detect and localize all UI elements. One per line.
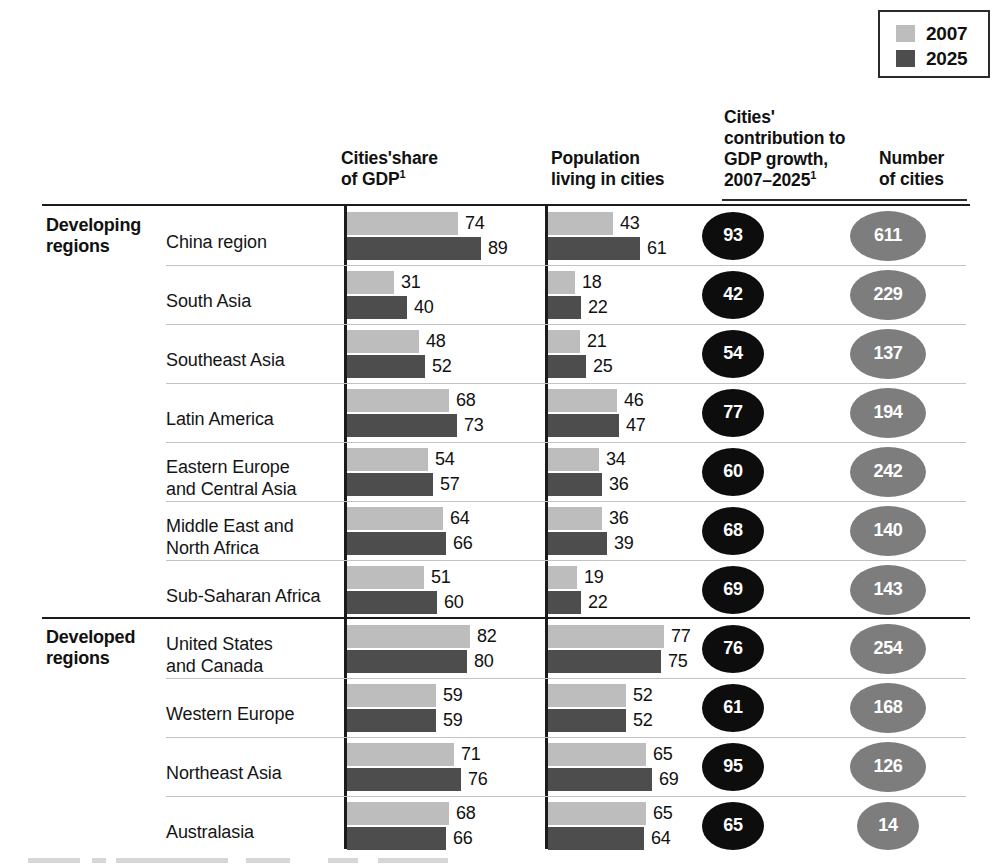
bar-gdp-share-2025 [347,827,446,850]
group-line-1: Developing [46,215,141,236]
bar-gdp-share-2025 [347,591,437,614]
bar-value-gdp-share-2007: 64 [450,507,470,530]
bar-gdp-share-2007 [347,566,424,589]
bar-value-gdp-share-2025: 59 [443,709,463,732]
bar-value-population-2007: 34 [606,448,626,471]
bar-gdp-share-2007 [347,448,428,471]
bar-population-2025 [548,296,581,319]
bar-population-2007 [548,271,575,294]
header-line-2: contribution to [724,128,854,149]
region-label-line-1: Northeast Asia [166,762,282,784]
gdp-contribution-value: 93 [702,212,764,260]
bar-population-2007 [548,802,646,825]
bar-value-gdp-share-2007: 71 [461,743,481,766]
gdp-contribution-value: 61 [702,684,764,732]
number-of-cities-value: 126 [850,742,926,792]
header-line-1: Number [879,148,989,169]
bar-value-population-2007: 21 [587,330,607,353]
bar-gdp-share-2025 [347,768,461,791]
header-line-1: Cities'share [341,148,521,169]
group-line-1: Developed [46,627,135,648]
header-line-4: 2007–20251 [724,170,854,191]
column-header-population: Population living in cities [551,148,731,190]
bar-population-2025 [548,591,581,614]
bar-population-2025 [548,650,661,673]
footnote-text-cropped [28,858,448,863]
oval-columns-rule [722,199,967,201]
region-label: Southeast Asia [166,349,285,371]
bar-value-population-2007: 77 [671,625,691,648]
section-rule-middle [42,617,970,619]
gdp-contribution-value: 60 [702,448,764,496]
bar-gdp-share-2007 [347,271,394,294]
bar-gdp-share-2007 [347,389,449,412]
gdp-contribution-value: 69 [702,566,764,614]
number-of-cities-value: 254 [850,624,926,674]
number-of-cities-value: 140 [850,506,926,556]
bar-value-gdp-share-2025: 66 [453,827,473,850]
bar-population-2025 [548,414,619,437]
bar-value-population-2025: 61 [647,237,667,260]
bar-value-gdp-share-2007: 74 [465,212,485,235]
legend-swatch-2007 [896,25,915,42]
bar-population-2007 [548,507,602,530]
row-separator [166,501,966,502]
bar-gdp-share-2007 [347,212,458,235]
bar-value-gdp-share-2007: 31 [401,271,421,294]
bar-value-population-2025: 47 [626,414,646,437]
group-line-2: regions [46,648,135,669]
bar-gdp-share-2025 [347,650,467,673]
bar-value-population-2025: 22 [588,296,608,319]
gdp-contribution-value: 76 [702,625,764,673]
region-label: Sub-Saharan Africa [166,585,320,607]
bar-population-2025 [548,709,626,732]
bar-gdp-share-2025 [347,709,436,732]
bar-value-gdp-share-2025: 76 [468,768,488,791]
bar-value-population-2007: 18 [582,271,602,294]
bar-value-population-2025: 52 [633,709,653,732]
bar-population-2025 [548,355,586,378]
bar-population-2025 [548,532,607,555]
column-header-gdp-contribution: Cities' contribution to GDP growth, 2007… [724,107,854,191]
row-separator [166,265,966,266]
row-separator [166,678,966,679]
bar-population-2007 [548,743,646,766]
bar-value-population-2007: 65 [653,802,673,825]
region-label-line-1: United States [166,633,273,655]
bar-value-gdp-share-2007: 48 [426,330,446,353]
region-label: Eastern Europeand Central Asia [166,456,296,500]
bar-gdp-share-2007 [347,330,419,353]
bar-population-2025 [548,768,652,791]
row-separator [166,560,966,561]
bar-population-2007 [548,330,580,353]
number-of-cities-value: 229 [850,270,926,320]
region-label-line-2: and Central Asia [166,478,296,500]
region-label-line-2: and Canada [166,655,273,677]
bar-population-2007 [548,625,664,648]
region-label: Latin America [166,408,274,430]
group-label-developed: Developed regions [46,627,135,669]
number-of-cities-value: 194 [850,388,926,438]
bar-gdp-share-2025 [347,237,481,260]
bar-value-population-2025: 22 [588,591,608,614]
bar-gdp-share-2007 [347,684,436,707]
bar-value-population-2007: 36 [609,507,629,530]
legend-item-2007: 2007 [896,21,988,46]
region-label-line-1: China region [166,231,267,253]
header-line-3: GDP growth, [724,149,854,170]
row-separator [166,796,966,797]
bar-value-population-2025: 25 [593,355,613,378]
legend-label-2007: 2007 [926,24,967,43]
chart-page: 2007 2025 Cities'share of GDP1 Populatio… [0,0,1005,867]
region-label: United Statesand Canada [166,633,273,677]
header-line-2: of cities [879,169,989,190]
group-line-2: regions [46,236,141,257]
region-label-line-1: Latin America [166,408,274,430]
legend: 2007 2025 [878,10,990,78]
region-label: Middle East andNorth Africa [166,515,294,559]
number-of-cities-value: 14 [857,802,919,850]
legend-item-2025: 2025 [896,46,988,71]
group-label-developing: Developing regions [46,215,141,257]
legend-label-2025: 2025 [926,49,967,68]
gdp-contribution-value: 65 [702,802,764,850]
